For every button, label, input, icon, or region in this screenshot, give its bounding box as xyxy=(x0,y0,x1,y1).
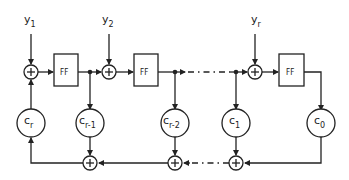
coefficient-cr-1: cr-1 xyxy=(76,109,104,137)
svg-text:FF: FF xyxy=(60,68,68,77)
adder-2 xyxy=(102,65,116,79)
adder-1 xyxy=(24,65,38,79)
feedback-adder-1 xyxy=(83,156,97,170)
input-y1-label: y1 xyxy=(24,13,36,29)
feedback-adder-3 xyxy=(229,156,243,170)
input-y2-label: y2 xyxy=(102,13,114,29)
flipflop-1: FF xyxy=(54,54,78,86)
coefficient-cr: cr xyxy=(17,109,45,137)
coefficient-c1: c1 xyxy=(222,109,250,137)
svg-text:FF: FF xyxy=(286,68,294,77)
input-y2: y2 xyxy=(102,13,114,64)
svg-text:FF: FF xyxy=(140,68,148,77)
coefficient-c0: c0 xyxy=(307,109,335,137)
input-yr: yr xyxy=(251,13,262,64)
input-yr-label: yr xyxy=(251,13,262,29)
feedback-adder-2 xyxy=(168,156,182,170)
lfsr-diagram: y1 y2 yr FF FF FF xyxy=(0,0,349,180)
flipflop-r: FF xyxy=(279,54,304,86)
flipflop-2: FF xyxy=(134,54,158,86)
input-y1: y1 xyxy=(24,13,36,64)
coefficient-cr-2: cr-2 xyxy=(161,109,189,137)
adder-r xyxy=(248,65,262,79)
